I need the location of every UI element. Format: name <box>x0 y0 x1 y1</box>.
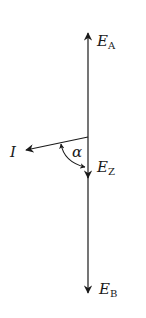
label-eb: EB <box>98 280 117 299</box>
label-alpha: α <box>72 143 82 161</box>
phasor-diagram: EA EZ EB I α <box>0 0 146 318</box>
label-i: I <box>9 143 17 161</box>
label-ea: EA <box>96 32 116 51</box>
label-ez: EZ <box>96 158 115 177</box>
